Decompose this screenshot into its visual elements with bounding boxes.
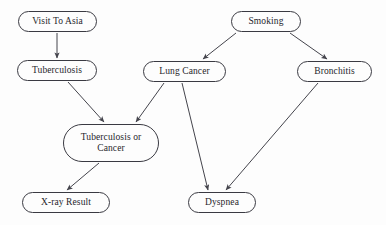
node-label-dyspnea: Dyspnea (203, 197, 241, 208)
edge-bronchitis-to-dyspnea (226, 83, 318, 190)
node-visit_to_asia[interactable]: Visit To Asia (18, 11, 97, 32)
edge-tuberculosis_or_cancer-to-xray_result (67, 163, 99, 190)
node-label-bronchitis: Bronchitis (312, 66, 357, 77)
node-bronchitis[interactable]: Bronchitis (297, 61, 372, 82)
node-lung_cancer[interactable]: Lung Cancer (143, 61, 226, 82)
edge-tuberculosis-to-tuberculosis_or_cancer (68, 82, 104, 122)
edges-group (57, 33, 327, 190)
node-label-xray_result: X-ray Result (39, 197, 93, 208)
node-tuberculosis_or_cancer[interactable]: Tuberculosis or Cancer (63, 124, 159, 162)
node-label-smoking: Smoking (246, 16, 285, 27)
node-smoking[interactable]: Smoking (231, 11, 301, 32)
node-label-tuberculosis: Tuberculosis (30, 65, 84, 76)
node-label-visit_to_asia: Visit To Asia (30, 16, 85, 27)
edge-lung_cancer-to-tuberculosis_or_cancer (136, 83, 164, 122)
node-dyspnea[interactable]: Dyspnea (188, 192, 256, 213)
node-label-lung_cancer: Lung Cancer (157, 66, 211, 77)
node-xray_result[interactable]: X-ray Result (22, 192, 110, 213)
edge-lung_cancer-to-dyspnea (182, 83, 208, 190)
edge-smoking-to-bronchitis (290, 33, 327, 59)
node-label-tuberculosis_or_cancer: Tuberculosis or Cancer (79, 132, 144, 153)
edge-smoking-to-lung_cancer (203, 33, 236, 59)
diagram-canvas: Visit To AsiaSmokingTuberculosisLung Can… (0, 0, 386, 225)
node-tuberculosis[interactable]: Tuberculosis (17, 60, 97, 81)
